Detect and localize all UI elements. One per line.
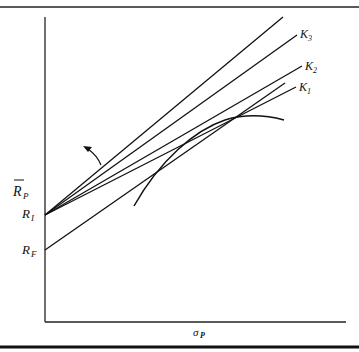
y-axis-label: R P <box>12 180 29 201</box>
line-k1 <box>45 87 296 215</box>
svg-text:σ: σ <box>193 326 199 338</box>
svg-text:P: P <box>200 331 205 340</box>
line-label-k1: K 1 <box>298 80 311 96</box>
svg-text:I: I <box>30 213 35 223</box>
intercept-label-rf: R F <box>21 242 37 259</box>
line-k2 <box>45 66 302 215</box>
svg-text:R: R <box>21 242 30 257</box>
diagram-figure: R P R I R F K 3 K 2 K 1 σ P <box>0 0 359 352</box>
svg-text:R: R <box>12 184 22 199</box>
svg-text:1: 1 <box>307 87 311 96</box>
svg-text:P: P <box>22 191 29 201</box>
efficient-frontier-curve <box>134 116 284 206</box>
svg-text:3: 3 <box>307 34 312 43</box>
svg-text:R: R <box>21 206 30 221</box>
x-axis-label: σ P <box>193 326 205 340</box>
line-label-k2: K 2 <box>304 59 317 75</box>
line-label-k3: K 3 <box>299 27 312 43</box>
rotation-arrow-icon <box>88 149 101 165</box>
svg-text:F: F <box>30 249 37 259</box>
intercept-label-ri: R I <box>21 206 35 223</box>
line-tangent-from-rf <box>45 83 285 250</box>
line-k3 <box>45 35 297 215</box>
svg-text:2: 2 <box>313 66 317 75</box>
